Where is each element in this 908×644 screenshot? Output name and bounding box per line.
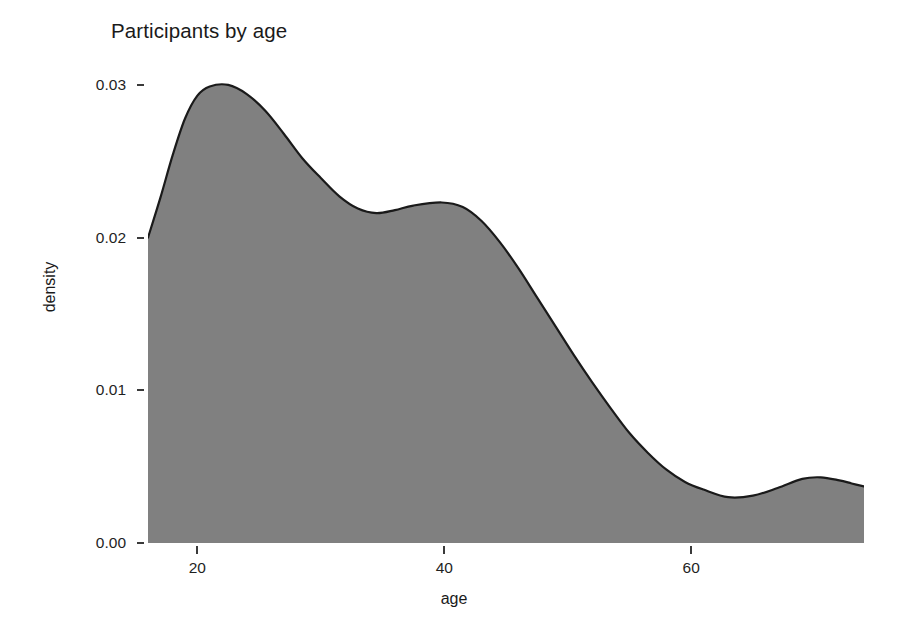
density-area-fill: [148, 84, 864, 543]
x-axis-title: age: [0, 590, 908, 608]
x-tick-label: 40: [414, 559, 474, 577]
y-tick-label: 0.03: [56, 77, 126, 93]
x-tick-label: 60: [661, 559, 721, 577]
y-tick-mark: [137, 389, 144, 391]
y-tick-label: 0.02: [56, 230, 126, 246]
density-plot-figure: Participants by age density 0.000.010.02…: [0, 0, 908, 644]
y-tick-mark: [137, 542, 144, 544]
y-tick-label: 0.01: [56, 382, 126, 398]
x-tick-mark: [196, 546, 198, 554]
density-area-curve: [148, 62, 864, 543]
x-axis-tick-labels: 204060: [0, 559, 908, 581]
y-tick-mark: [137, 84, 144, 86]
x-axis-tick-marks: [0, 546, 908, 558]
plot-panel: [148, 62, 864, 543]
x-tick-mark: [690, 546, 692, 554]
x-tick-mark: [443, 546, 445, 554]
y-tick-mark: [137, 237, 144, 239]
x-tick-label: 20: [167, 559, 227, 577]
